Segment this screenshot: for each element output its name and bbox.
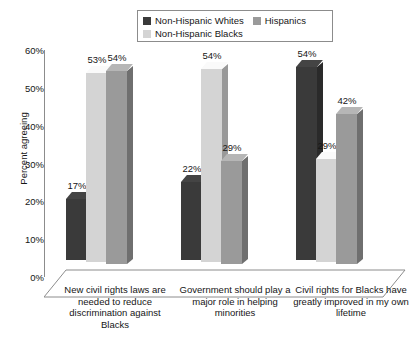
y-axis-tick-mark — [38, 88, 42, 89]
legend-label-non-hispanic-blacks: Non-Hispanic Blacks — [155, 29, 243, 39]
bar-front — [221, 161, 242, 264]
legend-row-2: Non-Hispanic Blacks — [143, 27, 327, 40]
bar-front — [181, 182, 202, 260]
y-axis-tick-mark — [38, 277, 42, 278]
bar-front — [296, 67, 317, 260]
bar-hispanics-group-3 — [336, 114, 357, 264]
bar-side — [242, 156, 248, 264]
legend-swatch-hispanics — [253, 17, 261, 25]
bar-side — [127, 66, 133, 264]
chart-legend: Non-Hispanic Whites Hispanics Non-Hispan… — [137, 10, 333, 42]
bar-front — [201, 69, 222, 262]
y-axis-tick-mark — [38, 239, 42, 240]
x-axis-category-label-3: Civil rights for Blacks have greatly imp… — [292, 284, 410, 319]
y-axis: 60%50%40%30%20%10%0% — [4, 0, 44, 359]
bar-front — [336, 114, 357, 264]
bar-front — [86, 73, 107, 262]
legend-item-non-hispanic-blacks: Non-Hispanic Blacks — [143, 29, 243, 39]
legend-label-non-hispanic-whites: Non-Hispanic Whites — [155, 16, 244, 26]
x-axis-category-label-2: Government should play a major role in h… — [176, 284, 294, 319]
y-axis-tick-mark — [38, 164, 42, 165]
y-axis-tick-mark — [38, 126, 42, 127]
y-axis-line — [44, 50, 45, 277]
y-axis-tick-mark — [38, 201, 42, 202]
bar-non-hispanic-whites-group-2 — [181, 182, 202, 260]
legend-item-non-hispanic-whites: Non-Hispanic Whites — [143, 16, 244, 26]
plot-area: 17%22%54%53%54%29%54%29%42% — [44, 50, 406, 278]
bar-front — [316, 159, 337, 262]
legend-swatch-non-hispanic-blacks — [143, 30, 151, 38]
bar-non-hispanic-whites-group-3 — [296, 67, 317, 260]
bar-front — [106, 71, 127, 264]
y-axis-tick-mark — [38, 50, 42, 51]
bar-side — [357, 109, 363, 264]
x-axis-category-label-1: New civil rights laws are needed to redu… — [56, 284, 174, 330]
legend-label-hispanics: Hispanics — [265, 16, 306, 26]
bar-front — [66, 199, 87, 260]
bar-hispanics-group-2 — [221, 161, 242, 264]
bar-hispanics-group-1 — [106, 71, 127, 264]
bar-value-label: 54% — [195, 50, 229, 61]
bar-value-label: 54% — [290, 48, 324, 59]
bar-non-hispanic-blacks-group-3 — [316, 159, 337, 262]
bar-value-label: 42% — [330, 95, 364, 106]
legend-row-1: Non-Hispanic Whites Hispanics — [143, 14, 327, 27]
bar-non-hispanic-whites-group-1 — [66, 199, 87, 260]
bar-non-hispanic-blacks-group-1 — [86, 73, 107, 262]
bar-non-hispanic-blacks-group-2 — [201, 69, 222, 262]
legend-swatch-non-hispanic-whites — [143, 17, 151, 25]
bar-value-label: 54% — [100, 52, 134, 63]
bar-value-label: 29% — [215, 142, 249, 153]
legend-item-hispanics: Hispanics — [253, 16, 306, 26]
